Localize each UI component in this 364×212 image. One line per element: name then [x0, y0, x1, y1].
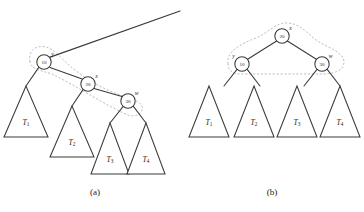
- tree-node-value-w-a: 30: [126, 99, 132, 104]
- tree-node-label-w-a: w: [135, 90, 139, 96]
- tree-edge-b-5: [327, 69, 340, 86]
- tree-edge-a-2: [50, 67, 82, 79]
- tree-edge-a-3: [72, 89, 83, 106]
- subtree-triangle-T4-a: [127, 123, 165, 174]
- tree-edge-b-2: [224, 69, 237, 86]
- tree-edge-b-0: [248, 41, 277, 59]
- tree-node-label-y-a: y: [50, 51, 54, 57]
- tree-edge-b-3: [247, 69, 260, 86]
- tree-node-value-w-b: 30: [320, 62, 326, 67]
- tree-node-value-y-a: 10: [42, 60, 48, 65]
- tree-node-value-x-b: 20: [280, 34, 286, 39]
- subtree-triangle-T4-b: [320, 86, 360, 137]
- figure-captions: (a)(b): [90, 187, 277, 197]
- subtree-triangle-T1-b: [189, 86, 229, 137]
- tree-node-label-x-a: x: [94, 73, 98, 79]
- subtree-triangle-T3-b: [277, 86, 317, 137]
- tree-edge-b-4: [304, 69, 317, 86]
- subtree-triangle-T3-a: [91, 123, 129, 174]
- tree-node-value-x-a: 20: [86, 82, 92, 87]
- tree-edge-b-1: [287, 41, 316, 59]
- tree-node-value-y-b: 10: [240, 62, 246, 67]
- figure-canvas: T1T2T3T410y20x30w T1T2T3T420x10y30w (a)(…: [0, 0, 364, 212]
- tree-rotation-figure: T1T2T3T410y20x30w T1T2T3T420x10y30w (a)(…: [0, 0, 364, 212]
- subtree-triangle-T2-b: [234, 86, 274, 137]
- tree-edge-a-6: [133, 106, 146, 123]
- panel-a: T1T2T3T410y20x30w: [4, 11, 180, 174]
- tree-node-label-y-b: y: [231, 53, 235, 59]
- panel-b: T1T2T3T420x10y30w: [189, 23, 360, 137]
- subtree-triangle-T2-a: [50, 106, 94, 157]
- tree-edge-a-5: [110, 107, 123, 123]
- tree-node-label-x-b: x: [288, 25, 292, 31]
- caption-b: (b): [267, 187, 278, 197]
- subtree-triangle-T1-a: [4, 86, 48, 137]
- parent-edge-a-0: [50, 11, 181, 57]
- tree-edge-a-1: [26, 68, 39, 86]
- tree-node-label-w-b: w: [329, 53, 333, 59]
- caption-a: (a): [90, 187, 100, 197]
